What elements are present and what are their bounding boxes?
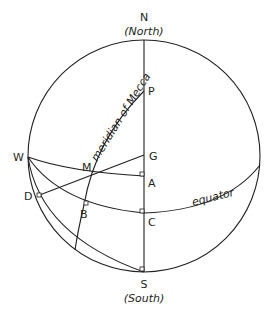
sphere-diagram: N (North) S (South) W P G M A D B C meri…	[0, 0, 269, 313]
label-c: C	[148, 216, 156, 229]
label-g: G	[149, 150, 158, 163]
right-angle-a	[140, 172, 144, 176]
label-n: N	[140, 11, 148, 24]
label-m: M	[82, 161, 92, 174]
label-south: (South)	[124, 292, 165, 305]
label-d: D	[24, 190, 32, 203]
label-b: B	[80, 208, 88, 221]
label-equator: equator	[191, 186, 237, 209]
label-a: A	[148, 177, 156, 190]
label-p: P	[148, 85, 155, 98]
right-angle-c	[140, 209, 144, 213]
label-w: W	[13, 151, 24, 164]
right-angle-b	[84, 201, 88, 205]
right-angle-d	[37, 193, 41, 197]
label-s: S	[141, 278, 148, 291]
label-north: (North)	[124, 25, 163, 38]
diagram-canvas: N (North) S (South) W P G M A D B C meri…	[0, 0, 269, 313]
right-angle-s	[140, 267, 144, 271]
